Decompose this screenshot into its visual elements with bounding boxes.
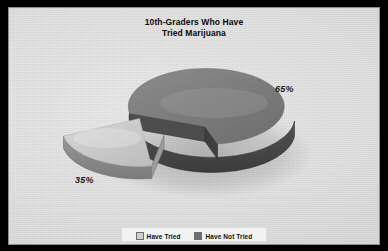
- slice-label-have-not-tried: 65%: [275, 84, 294, 94]
- chart-plate: 10th-Graders Who Have Tried Marijuana: [8, 7, 380, 245]
- chart-title-line-1: 10th-Graders Who Have: [145, 17, 243, 27]
- chart-legend: Have Tried Have Not Tried: [9, 232, 379, 240]
- pie-svg: [9, 8, 380, 245]
- legend-label-have-tried: Have Tried: [147, 233, 181, 240]
- legend-item-have-not-tried[interactable]: Have Not Tried: [194, 232, 252, 240]
- chart-title: 10th-Graders Who Have Tried Marijuana: [9, 17, 379, 39]
- chart-title-line-2: Tried Marijuana: [9, 28, 379, 39]
- legend-item-have-tried[interactable]: Have Tried: [136, 232, 181, 240]
- legend-swatch-have-not-tried: [194, 232, 202, 240]
- dark-slice-highlight: [160, 88, 268, 118]
- chart-frame: 10th-Graders Who Have Tried Marijuana: [0, 0, 388, 251]
- pie-chart-graphic: [9, 8, 379, 244]
- slice-label-have-tried: 35%: [75, 175, 94, 185]
- legend-swatch-have-tried: [136, 232, 144, 240]
- light-slice-highlight: [73, 128, 141, 148]
- legend-label-have-not-tried: Have Not Tried: [205, 233, 252, 240]
